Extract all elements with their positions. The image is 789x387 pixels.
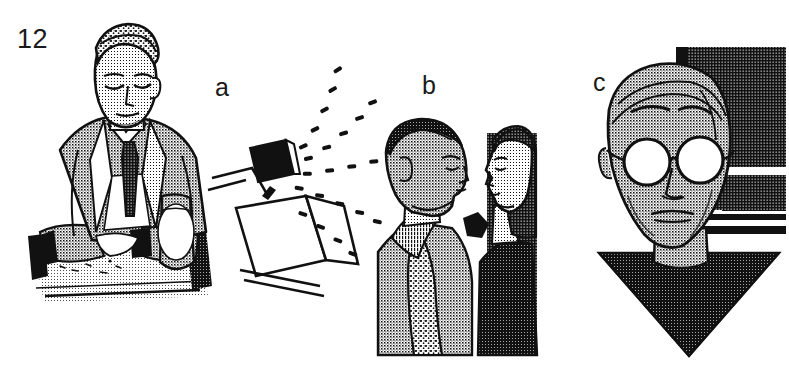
figure-number: 12 xyxy=(17,26,48,53)
panel-label-c: c xyxy=(593,70,606,95)
panel-c-illustration xyxy=(0,0,789,387)
figure-container: 12 a b c xyxy=(0,0,789,387)
panel-label-a: a xyxy=(215,75,229,100)
panel-label-b: b xyxy=(422,73,436,98)
